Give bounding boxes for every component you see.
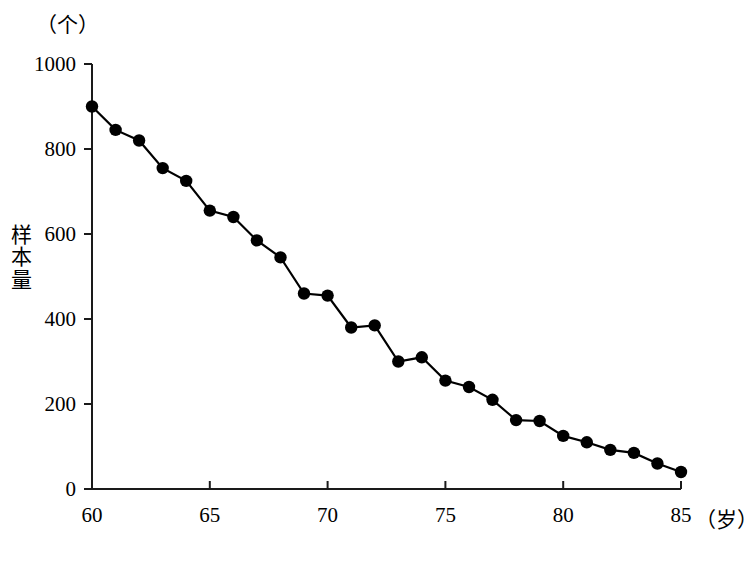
data-point-marker <box>439 374 451 386</box>
y-axis-ticks <box>84 64 92 489</box>
data-point-marker <box>392 355 404 367</box>
data-point-marker <box>298 287 310 299</box>
y-axis-tick-label: 600 <box>16 222 76 247</box>
data-series-markers <box>86 100 687 478</box>
plot-area <box>0 0 747 573</box>
data-point-marker <box>274 251 286 263</box>
y-axis-tick-label: 800 <box>16 137 76 162</box>
data-point-marker <box>581 436 593 448</box>
data-point-marker <box>628 447 640 459</box>
data-point-marker <box>227 211 239 223</box>
data-point-marker <box>604 444 616 456</box>
x-axis-tick-label: 65 <box>180 503 240 528</box>
chart-figure: （个） 样 本 量 02004006008001000 606570758085… <box>0 0 747 573</box>
data-point-marker <box>180 175 192 187</box>
data-point-marker <box>416 351 428 363</box>
x-axis-ticks <box>92 481 681 489</box>
data-point-marker <box>510 414 522 426</box>
x-axis-tick-label: 70 <box>298 503 358 528</box>
data-series-line <box>92 107 681 473</box>
data-point-marker <box>345 321 357 333</box>
data-point-marker <box>133 134 145 146</box>
x-axis-tick-label: 80 <box>533 503 593 528</box>
data-point-marker <box>651 457 663 469</box>
data-point-marker <box>251 234 263 246</box>
y-axis-tick-label: 1000 <box>16 52 76 77</box>
data-point-marker <box>557 430 569 442</box>
x-axis-tick-label: 60 <box>62 503 122 528</box>
data-point-marker <box>109 124 121 136</box>
data-point-marker <box>86 100 98 112</box>
data-point-marker <box>533 415 545 427</box>
x-axis-unit-label: （岁） <box>695 503 747 533</box>
data-point-marker <box>463 381 475 393</box>
x-axis-tick-label: 75 <box>415 503 475 528</box>
y-axis-tick-label: 0 <box>16 477 76 502</box>
data-point-marker <box>369 319 381 331</box>
y-axis-tick-label: 400 <box>16 307 76 332</box>
data-point-marker <box>157 162 169 174</box>
data-point-marker <box>204 204 216 216</box>
data-point-marker <box>675 466 687 478</box>
y-axis-tick-label: 200 <box>16 392 76 417</box>
data-point-marker <box>321 289 333 301</box>
axes <box>92 64 681 489</box>
data-point-marker <box>486 394 498 406</box>
